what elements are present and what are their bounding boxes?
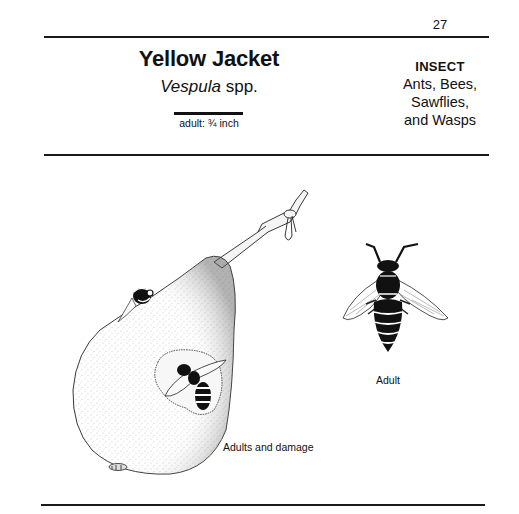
caption-adult: Adult — [376, 374, 400, 386]
pear-stem — [214, 190, 308, 268]
adult-wasp-illustration — [343, 244, 448, 352]
caption-adults-and-damage: Adults and damage — [223, 441, 313, 453]
illustration-canvas — [0, 0, 519, 514]
pear-illustration — [73, 190, 308, 474]
pear-calyx — [109, 464, 127, 471]
